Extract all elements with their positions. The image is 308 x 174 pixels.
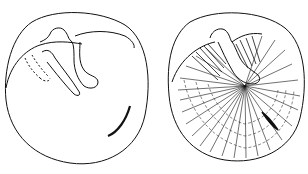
figure [0, 0, 308, 174]
inner-rim [172, 42, 215, 82]
process-arm [70, 40, 98, 88]
inner-rim [6, 42, 82, 88]
left-specimen-drawing [5, 13, 148, 164]
radial-hatching [178, 36, 300, 158]
muscle-scar-mark [108, 106, 130, 136]
muscle-scar-slit [262, 112, 278, 130]
rim-upper [75, 32, 134, 49]
hinge-knob [40, 28, 70, 42]
right-specimen-drawing [168, 13, 304, 161]
outer-outline [168, 13, 304, 161]
dashed-scar [25, 55, 50, 81]
process-arm [218, 42, 260, 84]
hinge-knob [210, 29, 262, 42]
